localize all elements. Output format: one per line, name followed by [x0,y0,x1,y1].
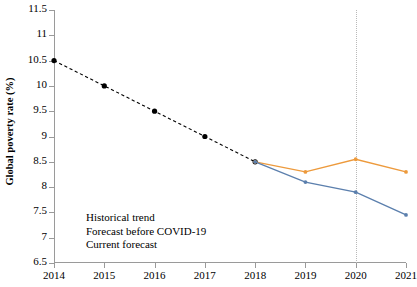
legend-label-forecast-before-covid: Forecast before COVID-19 [86,225,206,239]
x-tick-label: 2014 [43,269,65,281]
legend-marker-historical-trend [62,211,84,224]
y-tick-label: 7 [42,230,48,242]
legend-marker-forecast-before-covid [62,225,84,238]
legend-label-current-forecast: Current forecast [86,238,157,252]
x-tick-mark [54,263,55,268]
x-tick-mark [255,263,256,268]
y-tick-label: 10 [36,78,47,90]
data-point [404,213,408,217]
x-tick-label: 2019 [294,269,316,281]
x-tick-mark [155,263,156,268]
y-tick-label: 8 [42,179,48,191]
data-point [354,190,358,194]
y-tick-label: 6.5 [33,255,47,267]
data-point [253,160,257,164]
series-historical-trend [51,58,257,164]
data-point [304,180,308,184]
x-tick-label: 2020 [345,269,367,281]
y-tick-label: 7.5 [33,204,47,216]
y-tick-label: 9.5 [33,103,47,115]
chart-legend: Historical trend Forecast before COVID-1… [62,211,206,252]
y-tick-label: 9 [42,129,48,141]
data-point [404,170,408,174]
legend-marker-current-forecast [62,238,84,251]
y-axis-title-text: Global poverty rate (%) [4,77,15,185]
data-point [354,157,358,161]
y-tick-label: 8.5 [33,154,47,166]
x-tick-mark [406,263,407,268]
series-forecast-before-covid-19 [253,157,408,173]
data-point [152,109,157,114]
x-tick-mark [356,263,357,268]
legend-item-historical-trend: Historical trend [62,211,206,225]
y-tick-label: 11 [36,27,47,39]
series-current-forecast [253,160,408,217]
x-tick-label: 2018 [244,269,266,281]
y-tick-label: 11.5 [28,2,47,14]
x-tick-mark [104,263,105,268]
x-tick-label: 2017 [194,269,216,281]
data-point [102,83,107,88]
x-tick-label: 2021 [395,269,417,281]
x-tick-label: 2015 [93,269,115,281]
x-tick-label: 2016 [144,269,166,281]
legend-item-current-forecast: Current forecast [62,238,206,252]
data-point [304,170,308,174]
data-point [51,58,56,63]
y-axis-title: Global poverty rate (%) [0,0,18,262]
series-line [255,162,406,215]
series-line [255,159,406,172]
legend-label-historical-trend: Historical trend [86,211,155,225]
legend-item-forecast-before-covid: Forecast before COVID-19 [62,225,206,239]
x-tick-mark [305,263,306,268]
y-tick-label: 10.5 [28,53,47,65]
data-point [202,134,207,139]
x-tick-mark [205,263,206,268]
